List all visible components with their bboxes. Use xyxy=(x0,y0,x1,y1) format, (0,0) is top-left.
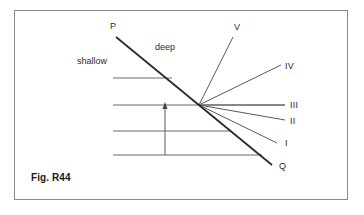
ray-v xyxy=(199,37,233,105)
label-q: Q xyxy=(279,162,286,171)
label-region-shallow: shallow xyxy=(77,57,107,66)
label-ray-ii: II xyxy=(290,117,295,126)
label-ray-v: V xyxy=(234,23,240,32)
figure-root: P Q V IV III II I deep shallow Fig. R44 xyxy=(0,0,364,215)
ray-iv xyxy=(199,65,281,105)
label-ray-iii: III xyxy=(290,101,298,110)
label-region-deep: deep xyxy=(155,43,175,52)
label-ray-iv: IV xyxy=(285,62,294,71)
ray-ii xyxy=(199,105,285,120)
boundary-line-pq xyxy=(116,37,272,165)
label-p: P xyxy=(110,22,116,31)
upward-arrow-icon xyxy=(162,102,167,155)
label-ray-i: I xyxy=(285,139,288,148)
ray-branch-lines xyxy=(199,37,285,143)
boundary-line-pq xyxy=(116,37,272,165)
figure-caption: Fig. R44 xyxy=(31,172,71,183)
horizontal-interface-lines xyxy=(113,78,285,155)
